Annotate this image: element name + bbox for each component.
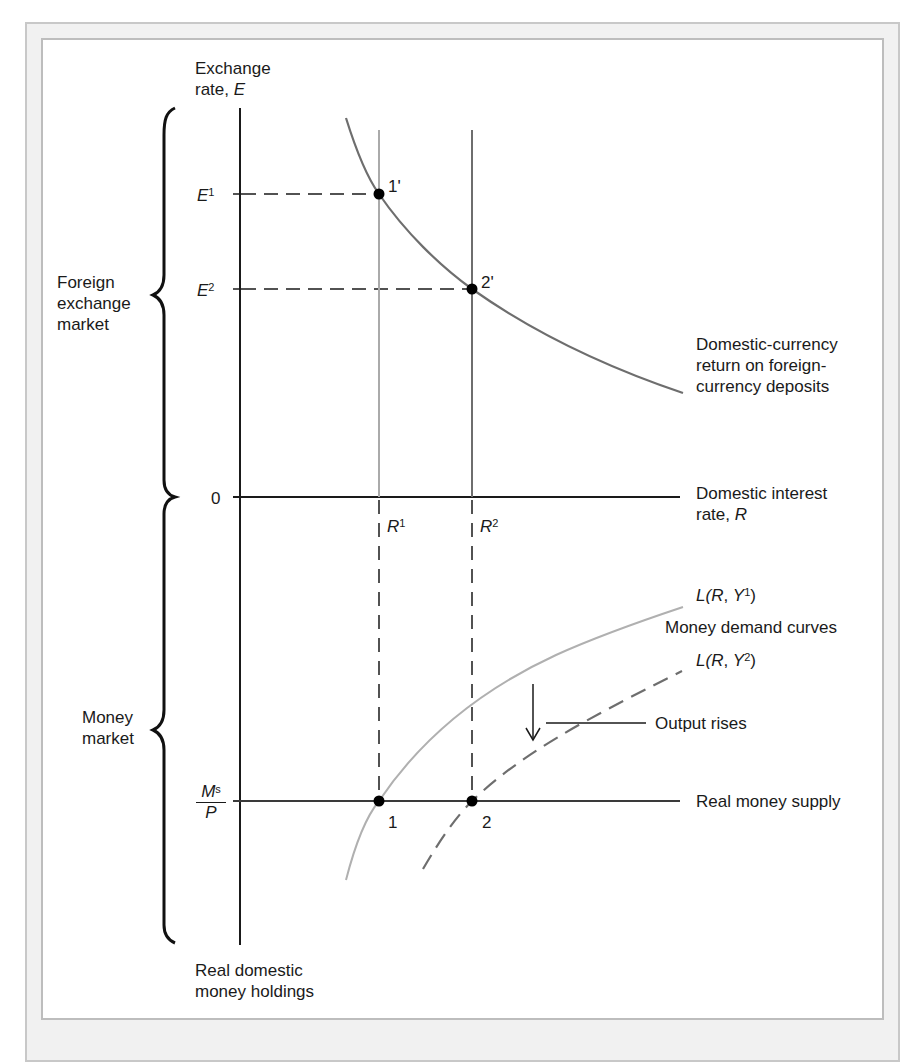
ms-over-p-label: Ms P (196, 782, 226, 823)
e1-tick-label: E1 (197, 185, 214, 206)
fx-market-label: Foreign exchange market (57, 272, 131, 335)
point-1-prime-label: 1' (388, 176, 401, 197)
interest-rate-axis-label: Domestic interest rate, R (696, 483, 827, 525)
money-demand-y2-label: L(R, Y2) (696, 650, 756, 671)
money-market-label: Money market (82, 707, 134, 749)
output-rises-label: Output rises (655, 713, 747, 734)
point-1 (374, 796, 385, 807)
y-axis-title-top: Exchange rate, E (195, 58, 271, 100)
point-2 (467, 796, 478, 807)
money-demand-curves-label: Money demand curves (665, 617, 837, 638)
e2-tick-label: E2 (197, 280, 214, 301)
point-2-prime (467, 284, 478, 295)
point-1-label: 1 (388, 812, 397, 833)
money-demand-curve-y1 (346, 607, 683, 880)
r1-tick-label: R1 (387, 516, 405, 537)
point-2-label: 2 (482, 812, 491, 833)
y-axis-title-bottom: Real domestic money holdings (195, 960, 314, 1002)
money-demand-curve-y2 (423, 671, 682, 869)
point-1-prime (374, 189, 385, 200)
r2-tick-label: R2 (480, 516, 498, 537)
money-demand-y1-label: L(R, Y1) (696, 585, 756, 606)
point-2-prime-label: 2' (481, 272, 494, 293)
origin-label: 0 (211, 488, 220, 509)
real-money-supply-label: Real money supply (696, 791, 841, 812)
left-brace (153, 108, 175, 943)
return-curve-label: Domestic-currency return on foreign- cur… (696, 334, 838, 397)
return-on-foreign-deposits-curve (346, 118, 683, 393)
